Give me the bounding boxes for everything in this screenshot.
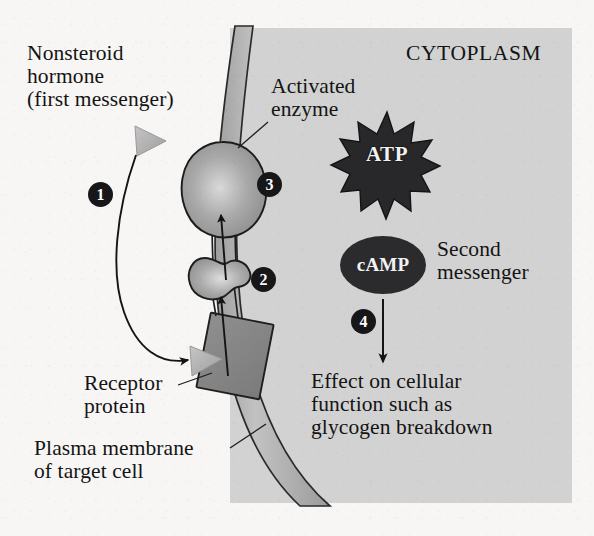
hormone-triangle-icon bbox=[135, 126, 166, 156]
hormone-signaling-diagram: Nonsteroid hormone (first messenger) Act… bbox=[0, 0, 594, 536]
label-second-messenger: Second messenger bbox=[437, 238, 529, 284]
label-cytoplasm: CYTOPLASM bbox=[406, 42, 541, 65]
label-activated-enzyme: Activated enzyme bbox=[271, 75, 355, 121]
label-nonsteroid-hormone: Nonsteroid hormone (first messenger) bbox=[27, 42, 174, 110]
camp-molecule: cAMP bbox=[340, 236, 426, 294]
step-badge-2: 2 bbox=[251, 267, 276, 292]
label-effect-on-cellular-function: Effect on cellular function such as glyc… bbox=[311, 370, 493, 438]
atp-label: ATP bbox=[366, 142, 408, 167]
atp-molecule: ATP bbox=[345, 116, 429, 192]
label-plasma-membrane: Plasma membrane of target cell bbox=[34, 437, 194, 483]
camp-label: cAMP bbox=[357, 254, 410, 276]
label-receptor-protein: Receptor protein bbox=[84, 372, 162, 418]
step-badge-1: 1 bbox=[88, 182, 113, 207]
step-badge-3: 3 bbox=[257, 172, 282, 197]
curved-arrow-icon bbox=[116, 155, 188, 361]
step-badge-4: 4 bbox=[351, 309, 376, 334]
activated-enzyme-shape bbox=[182, 142, 267, 237]
